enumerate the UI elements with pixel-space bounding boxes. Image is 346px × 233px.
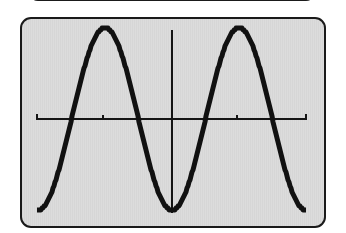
- graph-canvas: [0, 0, 346, 233]
